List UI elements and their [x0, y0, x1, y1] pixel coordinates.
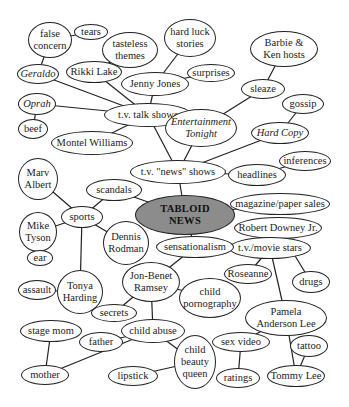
node-tattoo: tattoo [290, 335, 328, 357]
node-oprah: Oprah [18, 93, 56, 115]
node-beef: beef [18, 119, 48, 139]
node-etonight: Entertainment Tonight [165, 109, 237, 147]
node-sports: sports [61, 206, 103, 228]
node-sleaze: sleaze [241, 79, 285, 99]
node-stagemom: stage mom [20, 320, 82, 342]
node-tvmovie: t.v./movie stars [229, 237, 311, 259]
node-tonya: Tonya Harding [57, 270, 103, 314]
node-drugs: drugs [292, 271, 330, 293]
concept-map: TABLOID NEWSt.v. "news" showst.v. talk s… [0, 0, 349, 407]
node-father: father [79, 332, 123, 352]
node-tasteless: tasteless themes [102, 32, 158, 68]
node-tears: tears [74, 24, 108, 40]
node-scandals: scandals [86, 179, 142, 201]
node-assault: assault [18, 280, 56, 300]
node-gossip: gossip [282, 94, 324, 114]
node-jennyjones: Jenny Jones [121, 72, 189, 96]
node-mother: mother [21, 365, 69, 385]
node-geraldo: Geraldo [17, 64, 59, 84]
node-roseanne: Roseanne [224, 264, 272, 284]
node-surprises: surprises [187, 64, 235, 82]
node-sexvideo: sex video [212, 332, 270, 352]
node-magazine: magazine/paper sales [230, 193, 330, 215]
node-barbie: Barbie & Ken hosts [250, 31, 318, 67]
node-tommylee: Tommy Lee [267, 365, 325, 387]
node-tvnews: t.v. "news" shows [130, 160, 226, 184]
node-sensationalism: sensationalism [156, 236, 234, 258]
node-hardluck: hard luck stories [164, 19, 216, 57]
node-jonbenet: Jon-Benet Ramsey [122, 262, 180, 302]
node-hardcopy: Hard Copy [251, 122, 309, 144]
node-rodman: Dennis Rodman [103, 221, 149, 265]
node-headlines: headlines [228, 164, 286, 186]
node-ratings: ratings [216, 368, 260, 388]
node-childabuse: child abuse [121, 319, 185, 343]
node-lipstick: lipstick [108, 366, 158, 386]
node-beautyqueen: child beauty queen [174, 335, 216, 389]
node-marv: Marv Albert [18, 158, 58, 200]
node-secrets: secrets [91, 304, 137, 322]
node-ear: ear [27, 250, 53, 266]
node-tyson: Mike Tyson [19, 212, 57, 252]
node-rdj: Robert Downey Jr. [234, 217, 322, 239]
node-pamela: Pamela Anderson Lee [245, 300, 327, 336]
node-inferences: inferences [279, 151, 331, 171]
node-childporn: child pornography [179, 278, 241, 318]
node-falseconcern: false concern [28, 22, 72, 58]
node-tabloid: TABLOID NEWS [135, 195, 235, 235]
node-montel: Montel Williams [51, 131, 133, 155]
